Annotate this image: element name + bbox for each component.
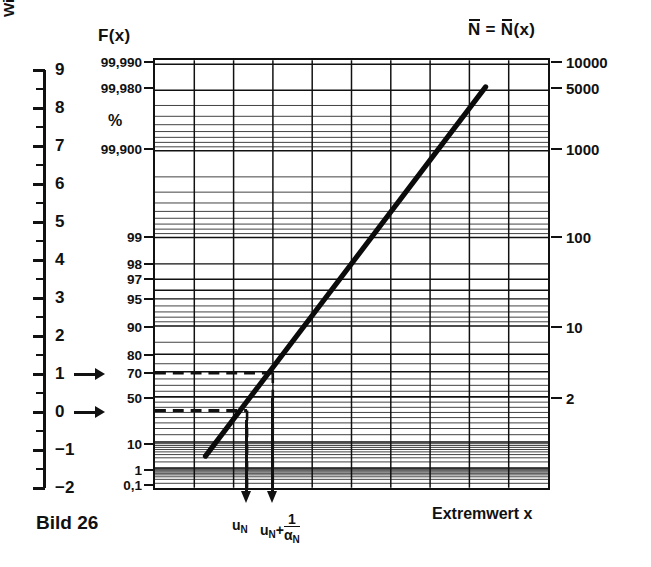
fraction-numerator: 1 [284,512,300,527]
x-axis-title: Extremwert x [432,505,533,523]
u-n-subscript: N [241,524,248,535]
drop-arrow-u-n-plus-one-over-alpha [271,398,274,492]
return-period-tick-labels: 1000050001000100102 [0,0,651,567]
drop-arrow-u-n [245,420,248,492]
return-period-tick-label: 5000 [566,80,599,97]
figure-caption: Bild 26 [36,512,98,534]
return-period-tick-label: 100 [566,229,591,246]
annotation-u-n-plus-one-over-alpha: uN+1αN [260,512,300,545]
plus-sign: + [276,522,284,538]
pointer-arrow-y0 [74,411,96,414]
u-n-base: u [232,517,241,533]
return-period-tick-label: 2 [566,390,574,407]
one-over-alpha-n-fraction: 1αN [284,512,300,545]
fraction-denominator: αN [284,527,300,545]
figure-root: F(x) N = N(x) reduzierter Extremwert y W… [0,0,651,567]
return-period-tick-label: 10000 [566,54,608,71]
return-period-tick-label: 1000 [566,141,599,158]
annotation-u-n: uN [232,517,248,535]
alpha-symbol: α [284,527,293,543]
alpha-subscript: N [293,534,300,545]
u-n-plus-base: u [260,522,269,538]
u-n-plus-subscript: N [269,529,276,540]
pointer-arrow-y1 [74,373,96,376]
return-period-tick-label: 10 [566,318,583,335]
